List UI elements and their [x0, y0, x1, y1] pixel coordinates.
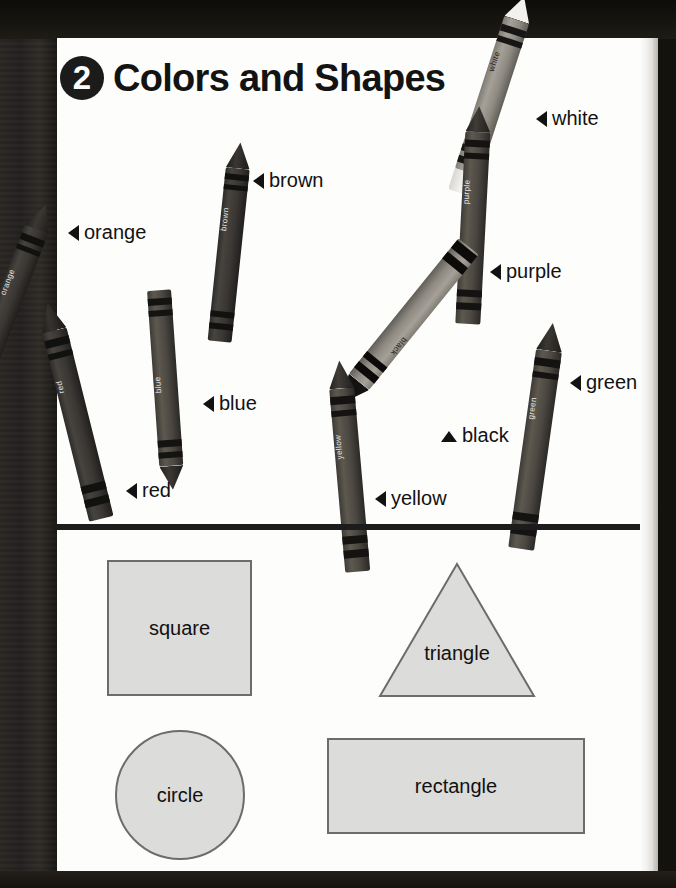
crayon-label-text: brown — [269, 169, 323, 192]
crayon-label-text: blue — [219, 392, 257, 415]
crayon-label-text: red — [142, 479, 171, 502]
scanned-page-image: orange brown white purple — [0, 0, 676, 888]
crayon-label-green: green — [570, 371, 637, 394]
page-title: Colors and Shapes — [113, 56, 445, 100]
crayon-barrel-text-blue: blue — [153, 375, 178, 393]
crayon-label-text: green — [586, 371, 637, 394]
triangle-svg — [376, 560, 538, 700]
crayon-tip — [226, 141, 253, 169]
section-divider-rule — [53, 524, 650, 530]
scan-bottom-border — [0, 871, 676, 888]
crayon-label-text: orange — [84, 221, 146, 244]
arrow-left-icon — [126, 483, 137, 499]
crayon-label-white: white — [536, 107, 599, 130]
arrow-left-icon — [536, 111, 547, 127]
arrow-left-icon — [253, 173, 264, 189]
crayon-label-yellow: yellow — [375, 487, 447, 510]
arrow-left-icon — [570, 375, 581, 391]
arrow-left-icon — [490, 264, 501, 280]
arrow-left-icon — [68, 225, 79, 241]
shape-square: square — [107, 560, 252, 696]
arrow-left-icon — [203, 396, 214, 412]
shape-label-circle: circle — [117, 732, 243, 858]
arrow-left-icon — [375, 491, 386, 507]
shape-label-triangle: triangle — [376, 642, 538, 665]
crayon-label-text: black — [462, 424, 509, 447]
crayon-barrel-text-purple: purple — [462, 179, 488, 205]
shape-rectangle: rectangle — [327, 738, 585, 834]
crayon-label-brown: brown — [253, 169, 323, 192]
crayon-label-red: red — [126, 479, 171, 502]
crayon-barrel-text-green: green — [526, 397, 555, 423]
chapter-number-badge: 2 — [60, 56, 104, 100]
crayon-barrel-text-yellow: yellow — [333, 433, 360, 460]
page-fore-edge-shadow — [653, 38, 658, 871]
crayon-barrel-text-brown: brown — [219, 207, 245, 233]
shape-triangle: triangle — [376, 560, 538, 700]
shape-label-rectangle: rectangle — [329, 740, 583, 832]
arrow-up-icon — [441, 431, 457, 442]
scan-top-border — [0, 0, 676, 39]
crayon-label-text: purple — [506, 260, 562, 283]
crayon-tip — [327, 359, 354, 389]
crayon-tip — [465, 105, 491, 132]
crayon-tip — [536, 321, 566, 352]
crayon-label-orange: orange — [68, 221, 146, 244]
crayon-label-text: yellow — [391, 487, 447, 510]
crayon-label-black: black — [441, 424, 509, 447]
book-gutter-texture — [0, 0, 57, 888]
crayon-label-text: white — [552, 107, 599, 130]
crayon-label-blue: blue — [203, 392, 257, 415]
page-title-row: 2 Colors and Shapes — [60, 56, 445, 100]
crayon-label-purple: purple — [490, 260, 562, 283]
shape-label-square: square — [109, 562, 250, 694]
shape-circle: circle — [115, 730, 245, 860]
